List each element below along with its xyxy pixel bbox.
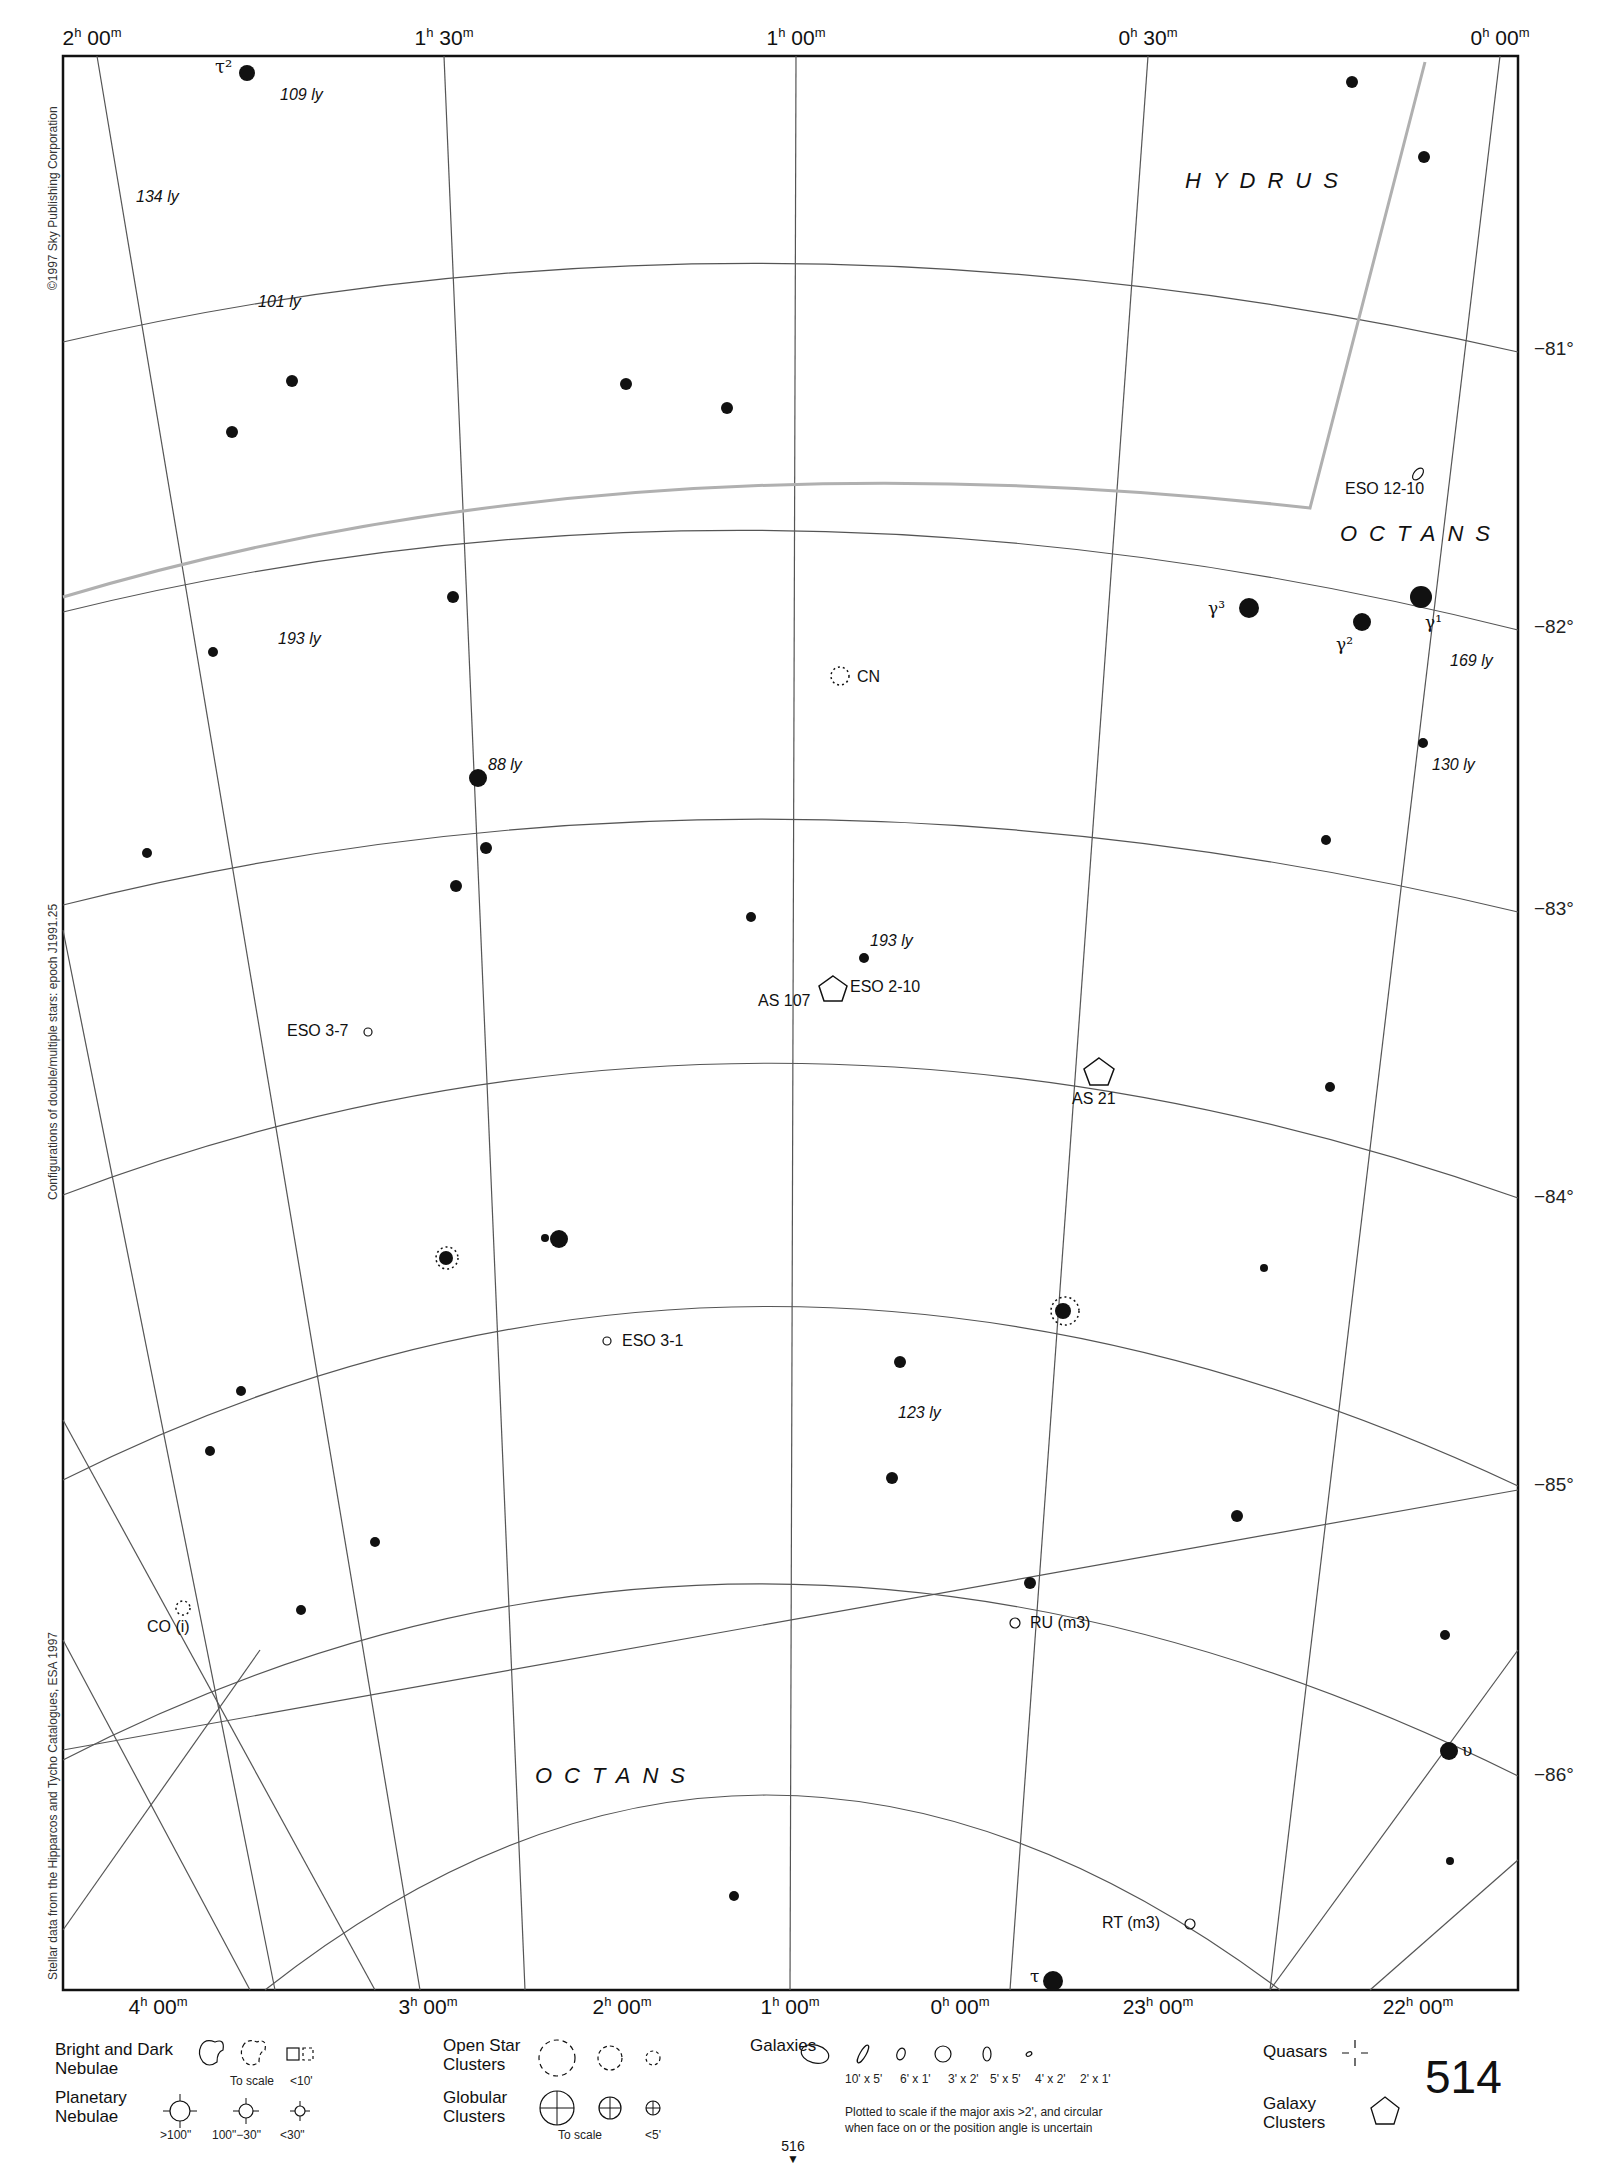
ra-label: 3h 00m (399, 1994, 458, 2019)
legend-caption: To scale (558, 2128, 602, 2142)
galaxy-size: 5' x 5' (990, 2072, 1021, 2086)
legend-galaxy-clusters-title: Galaxy Clusters (1263, 2094, 1325, 2132)
distance-label: 193 ly (278, 630, 321, 648)
distance-label: 101 ly (258, 293, 301, 311)
distance-label: 169 ly (1450, 652, 1493, 670)
variable-star-label: CN (857, 668, 880, 686)
quasar-icon (1340, 2038, 1370, 2068)
legend-nebulae-title: Bright and Dark Nebulae (55, 2040, 173, 2078)
arrow-down-icon: ▼ (778, 2154, 808, 2164)
copyright-credit: ©1997 Sky Publishing Corporation (46, 106, 60, 290)
dec-label: −86° (1534, 1764, 1574, 1786)
constellation-name-octans: OCTANS (535, 1763, 697, 1789)
dec-label: −82° (1534, 616, 1574, 638)
ra-label: 2h 00m (63, 25, 122, 50)
ra-label: 23h 00m (1123, 1994, 1194, 2019)
ra-label: 1h 30m (415, 25, 474, 50)
ra-label: 1h 00m (761, 1994, 820, 2019)
globular-cluster-icons (535, 2086, 675, 2130)
ra-label: 0h 00m (1471, 25, 1530, 50)
dec-label: −84° (1534, 1186, 1574, 1208)
page-number: 514 (1425, 2050, 1502, 2104)
ra-label: 22h 00m (1383, 1994, 1454, 2019)
small-galaxy-markers (364, 466, 1426, 1929)
galaxy-label: ESO 3-7 (287, 1022, 348, 1040)
variable-star-markers (176, 667, 1079, 1615)
star-label: τ (1030, 1966, 1039, 1986)
dec-label: −81° (1534, 338, 1574, 360)
galaxy-size: 2' x 1' (1080, 2072, 1111, 2086)
galaxy-size: 3' x 2' (948, 2072, 979, 2086)
legend-caption: <30" (280, 2128, 305, 2142)
legend-caption: <5' (645, 2128, 661, 2142)
nebula-icons (195, 2036, 315, 2072)
grid-lines (63, 56, 1518, 1990)
galaxy-label: ESO 12-10 (1345, 480, 1424, 498)
constellation-name-hydrus: HYDRUS (1185, 168, 1350, 194)
open-cluster-icons (535, 2036, 675, 2080)
ra-label: 0h 30m (1119, 25, 1178, 50)
dec-label: −83° (1534, 898, 1574, 920)
distance-label: 193 ly (870, 932, 913, 950)
legend-quasars-title: Quasars (1263, 2042, 1327, 2061)
galaxy-icons (775, 2040, 1065, 2074)
ra-label: 1h 00m (767, 25, 826, 50)
distance-label: 88 ly (488, 756, 522, 774)
legend-caption: <10' (290, 2074, 313, 2088)
constellation-boundary (63, 62, 1425, 597)
galaxy-label: ESO 2-10 (850, 978, 920, 996)
planetary-nebula-icons (160, 2090, 340, 2132)
ra-label: 2h 00m (593, 1994, 652, 2019)
galaxy-cluster-label: AS 107 (758, 992, 810, 1010)
star-chart (0, 0, 1616, 2180)
dec-label: −85° (1534, 1474, 1574, 1496)
galaxy-size: 10' x 5' (845, 2072, 882, 2086)
star-label: γ¹ (1425, 612, 1442, 632)
distance-label: 130 ly (1432, 756, 1475, 774)
galaxy-cluster-icon (1368, 2094, 1402, 2128)
legend-planetary-title: Planetary Nebulae (55, 2088, 127, 2126)
star-label: υ (1462, 1740, 1472, 1760)
distance-label: 109 ly (280, 86, 323, 104)
variable-star-label: RT (m3) (1102, 1914, 1160, 1932)
star-label: γ² (1336, 634, 1353, 654)
ra-label: 4h 00m (129, 1994, 188, 2019)
ra-label: 0h 00m (931, 1994, 990, 2019)
distance-label: 123 ly (898, 1404, 941, 1422)
next-page-link[interactable]: 516 ▼ (778, 2138, 808, 2164)
variable-star-label: RU (m3) (1030, 1614, 1090, 1632)
galaxy-label: ESO 3-1 (622, 1332, 683, 1350)
legend-caption: 100"−30" (212, 2128, 261, 2142)
galaxies-note: Plotted to scale if the major axis >2', … (845, 2104, 1102, 2136)
data-source-credit: Stellar data from the Hipparcos and Tych… (46, 1632, 60, 1980)
distance-label: 134 ly (136, 188, 179, 206)
galaxy-cluster-label: AS 21 (1072, 1090, 1116, 1108)
legend-caption: >100" (160, 2128, 191, 2142)
star-label: τ² (215, 56, 232, 77)
epoch-credit: Configurations of double/multiple stars:… (46, 904, 60, 1200)
legend-globular-title: Globular Clusters (443, 2088, 507, 2126)
galaxy-size: 6' x 1' (900, 2072, 931, 2086)
galaxy-size: 4' x 2' (1035, 2072, 1066, 2086)
legend-caption: To scale (230, 2074, 274, 2088)
constellation-name-octans: OCTANS (1340, 521, 1502, 547)
variable-star-label: CO (i) (147, 1618, 190, 1636)
legend-open-clusters-title: Open Star Clusters (443, 2036, 521, 2074)
star-label: γ³ (1208, 598, 1225, 618)
